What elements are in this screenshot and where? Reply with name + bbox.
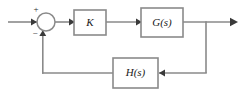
block-diagram-svg: + − K G(s) H(s) [0,0,242,96]
arrowhead-into-summer [31,19,37,26]
summing-plus-sign: + [33,4,38,14]
arrowhead-into-feedback-block [159,70,165,77]
block-feedback-hs-label: H(s) [125,66,146,79]
block-gain-k-label: K [85,16,94,28]
arrowhead-output [230,18,238,26]
block-plant-gs-label: G(s) [152,16,172,29]
summing-minus-sign: − [32,28,37,38]
block-diagram-canvas: + − K G(s) H(s) [0,0,242,96]
summing-junction [37,13,55,31]
